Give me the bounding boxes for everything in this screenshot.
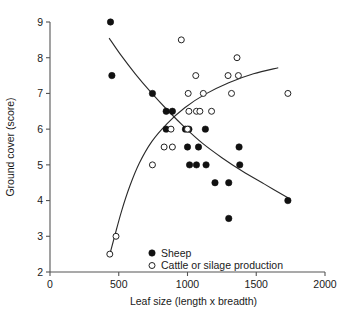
data-point	[285, 90, 291, 96]
data-point	[107, 19, 113, 25]
data-point	[200, 90, 206, 96]
legend: SheepCattle or silage production	[149, 247, 283, 272]
legend-label: Cattle or silage production	[161, 259, 283, 271]
data-point	[109, 72, 115, 78]
y-tick-label: 8	[37, 52, 43, 64]
data-point	[163, 108, 169, 114]
data-point	[184, 144, 190, 150]
data-point	[193, 162, 199, 168]
x-tick-label: 500	[110, 278, 128, 290]
chart-canvas: 234567890500100015002000Leaf size (lengt…	[0, 0, 340, 321]
y-tick-label: 6	[37, 123, 43, 135]
data-point	[168, 126, 174, 132]
y-tick-label: 5	[37, 159, 43, 171]
y-tick-label: 7	[37, 87, 43, 99]
data-point	[169, 108, 175, 114]
y-tick-label: 9	[37, 16, 43, 28]
x-tick-label: 0	[47, 278, 53, 290]
data-point	[226, 180, 232, 186]
legend-marker-open-circle	[149, 263, 155, 269]
x-axis-title: Leaf size (length x breadth)	[130, 295, 257, 307]
data-point	[161, 144, 167, 150]
data-point	[149, 90, 155, 96]
y-tick-label: 2	[37, 266, 43, 278]
data-point	[107, 251, 113, 257]
data-point	[202, 126, 208, 132]
data-point	[113, 233, 119, 239]
y-axis: 23456789	[37, 16, 50, 278]
y-tick-label: 3	[37, 230, 43, 242]
data-point	[149, 162, 155, 168]
x-tick-label: 1500	[245, 278, 269, 290]
y-axis-title: Ground cover (score)	[4, 97, 16, 196]
data-point	[234, 55, 240, 61]
legend-label: Sheep	[161, 247, 192, 259]
data-point	[186, 162, 192, 168]
scatter-plot-figure: 234567890500100015002000Leaf size (lengt…	[0, 0, 340, 321]
data-point	[226, 215, 232, 221]
trend-curve-series-1	[109, 68, 278, 256]
x-axis: 0500100015002000	[47, 272, 337, 290]
y-tick-label: 4	[37, 194, 43, 206]
data-point	[178, 37, 184, 43]
data-point	[229, 90, 235, 96]
data-point	[186, 108, 192, 114]
series-points-0	[107, 19, 291, 222]
data-point	[237, 162, 243, 168]
data-point	[235, 73, 241, 79]
x-tick-label: 1000	[176, 278, 200, 290]
data-point	[212, 180, 218, 186]
data-point	[193, 73, 199, 79]
data-point	[285, 197, 291, 203]
legend-marker-filled-circle	[149, 250, 155, 256]
data-point	[185, 90, 191, 96]
data-point	[209, 108, 215, 114]
x-tick-label: 2000	[313, 278, 337, 290]
data-point	[169, 144, 175, 150]
data-point	[185, 126, 191, 132]
data-point	[225, 73, 231, 79]
data-point	[195, 144, 201, 150]
data-point	[236, 144, 242, 150]
trend-curve-series-0	[109, 38, 288, 198]
data-point	[203, 162, 209, 168]
data-point	[197, 108, 203, 114]
